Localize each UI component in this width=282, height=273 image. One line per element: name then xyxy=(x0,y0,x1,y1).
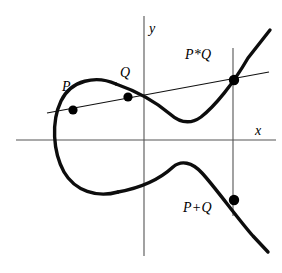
y-axis-label: y xyxy=(149,22,155,36)
point-Q-marker xyxy=(123,92,132,101)
elliptic-curve-figure: y x P Q P*Q P+Q xyxy=(0,0,282,273)
point-P-star-Q-marker xyxy=(229,75,239,85)
point-P-star-Q-label: P*Q xyxy=(185,48,211,62)
x-axis-label: x xyxy=(255,124,261,138)
point-Q-label: Q xyxy=(120,66,130,80)
point-P-plus-Q-label: P+Q xyxy=(183,201,212,215)
point-P-label: P xyxy=(62,80,71,94)
point-P-marker xyxy=(68,105,77,114)
figure-canvas xyxy=(0,0,282,273)
point-P-plus-Q-marker xyxy=(229,195,239,205)
curve-oval-component xyxy=(55,80,118,194)
